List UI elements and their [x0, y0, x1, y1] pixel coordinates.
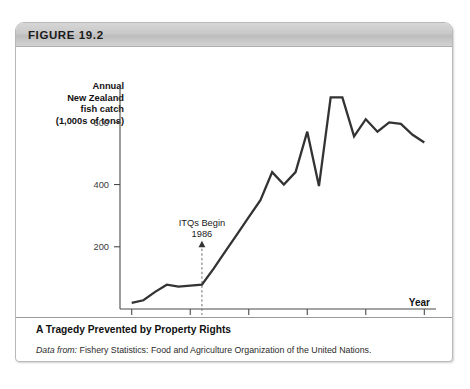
source-prefix-label: Data from:: [36, 345, 77, 355]
y-tick-label: 400: [93, 180, 109, 190]
y-ticks-group: 200400600: [93, 118, 120, 252]
itq-arrow-icon: [199, 241, 206, 248]
x-axis-title: Year: [409, 297, 430, 308]
line-chart-svg: 200400600 198019851990199520002005 ITQs …: [16, 47, 452, 317]
itq-annotation-label-line-1: ITQs Begin: [179, 218, 226, 228]
figure-card: FIGURE 19.2 Annual New Zealand fish catc…: [15, 22, 453, 362]
caption-block: A Tragedy Prevented by Property Rights D…: [36, 324, 436, 355]
itq-annotation-label-line-2: 1986: [192, 229, 213, 239]
y-tick-label: 200: [93, 242, 109, 252]
axes-group: [120, 85, 436, 309]
x-ticks-group: 198019851990199520002005: [121, 309, 434, 317]
figure-header: FIGURE 19.2: [16, 23, 452, 47]
itq-annotation: ITQs Begin 1986: [179, 218, 226, 315]
source-text: Fishery Statistics: Food and Agriculture…: [80, 345, 372, 355]
caption-divider: [16, 317, 452, 318]
y-tick-label: 600: [93, 118, 109, 128]
caption-title: A Tragedy Prevented by Property Rights: [36, 324, 436, 335]
chart-plot-area: Annual New Zealand fish catch (1,000s of…: [16, 47, 452, 317]
figure-number-label: FIGURE 19.2: [28, 29, 104, 41]
fish-catch-series-line: [132, 97, 425, 302]
caption-source: Data from: Fishery Statistics: Food and …: [36, 345, 436, 355]
